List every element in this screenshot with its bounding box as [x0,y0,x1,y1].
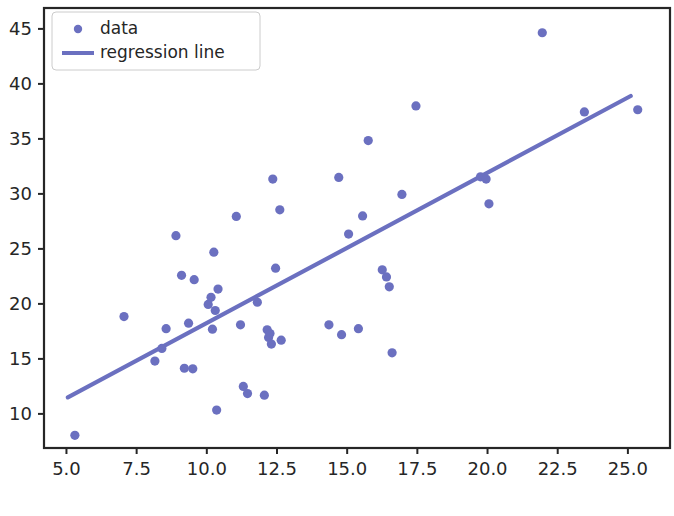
scatter-point [382,272,391,281]
axes-spines [44,8,670,448]
legend-marker-data [74,25,82,33]
scatter-point [633,105,642,114]
y-tick-label: 20 [0,295,32,313]
scatter-point [337,330,346,339]
scatter-point [209,248,218,257]
y-tick-label: 25 [0,240,32,258]
scatter-point [580,107,589,116]
scatter-point [212,405,221,414]
x-tick-label: 22.5 [538,460,578,478]
scatter-point [211,306,220,315]
scatter-point [267,339,276,348]
x-tick-label: 7.5 [122,460,151,478]
y-tick-label: 45 [0,20,32,38]
scatter-point [385,282,394,291]
scatter-point [268,174,277,183]
plot-canvas: dataregression line [0,0,674,516]
scatter-point [70,431,79,440]
legend: dataregression line [52,12,260,70]
scatter-point [150,357,159,366]
scatter-point [358,211,367,220]
scatter-point [177,271,186,280]
scatter-point [484,199,493,208]
scatter-point [271,264,280,273]
scatter-point [397,190,406,199]
scatter-point [184,319,193,328]
scatter-point [324,320,333,329]
scatter-point [243,389,252,398]
scatter-point [180,364,189,373]
y-tick-label: 15 [0,350,32,368]
scatter-plot-figure: dataregression line 5.07.510.012.515.017… [0,0,674,516]
scatter-point [206,293,215,302]
scatter-point [538,28,547,37]
scatter-point [157,344,166,353]
scatter-point [162,324,171,333]
x-tick-label: 5.0 [52,460,81,478]
legend-label-regression-line: regression line [100,42,225,62]
scatter-point [411,101,420,110]
y-tick-label: 10 [0,405,32,423]
axes-frame [44,8,670,448]
x-tick-label: 17.5 [397,460,437,478]
scatter-point [171,231,180,240]
scatter-point [190,275,199,284]
regression-line [68,96,631,397]
y-tick-label: 35 [0,130,32,148]
legend-label-data: data [100,18,138,38]
scatter-point [275,205,284,214]
scatter-point [119,312,128,321]
scatter-point [188,364,197,373]
scatter-points [70,28,642,440]
scatter-point [387,348,396,357]
scatter-point [260,391,269,400]
scatter-point [482,174,491,183]
x-tick-label: 25.0 [608,460,648,478]
scatter-point [232,212,241,221]
y-tick-label: 40 [0,75,32,93]
scatter-point [344,229,353,238]
scatter-point [253,298,262,307]
scatter-point [364,136,373,145]
regression-line-path [68,96,631,397]
y-tick-label: 30 [0,185,32,203]
x-tick-label: 20.0 [467,460,507,478]
x-tick-label: 10.0 [187,460,227,478]
x-tick-label: 15.0 [327,460,367,478]
x-tick-label: 12.5 [257,460,297,478]
scatter-point [213,284,222,293]
scatter-point [277,336,286,345]
scatter-point [334,173,343,182]
scatter-point [208,325,217,334]
scatter-point [265,329,274,338]
scatter-point [236,320,245,329]
scatter-point [354,324,363,333]
